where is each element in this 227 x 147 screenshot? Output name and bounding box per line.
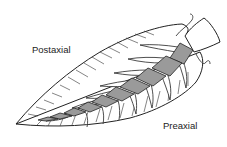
postaxial-label: Postaxial <box>32 44 71 55</box>
fin-outline <box>16 24 203 126</box>
basal-element <box>185 18 220 52</box>
preaxial-label: Preaxial <box>163 120 197 131</box>
fin-diagram: Postaxial Preaxial <box>0 0 227 147</box>
postaxial-radials <box>46 45 178 121</box>
